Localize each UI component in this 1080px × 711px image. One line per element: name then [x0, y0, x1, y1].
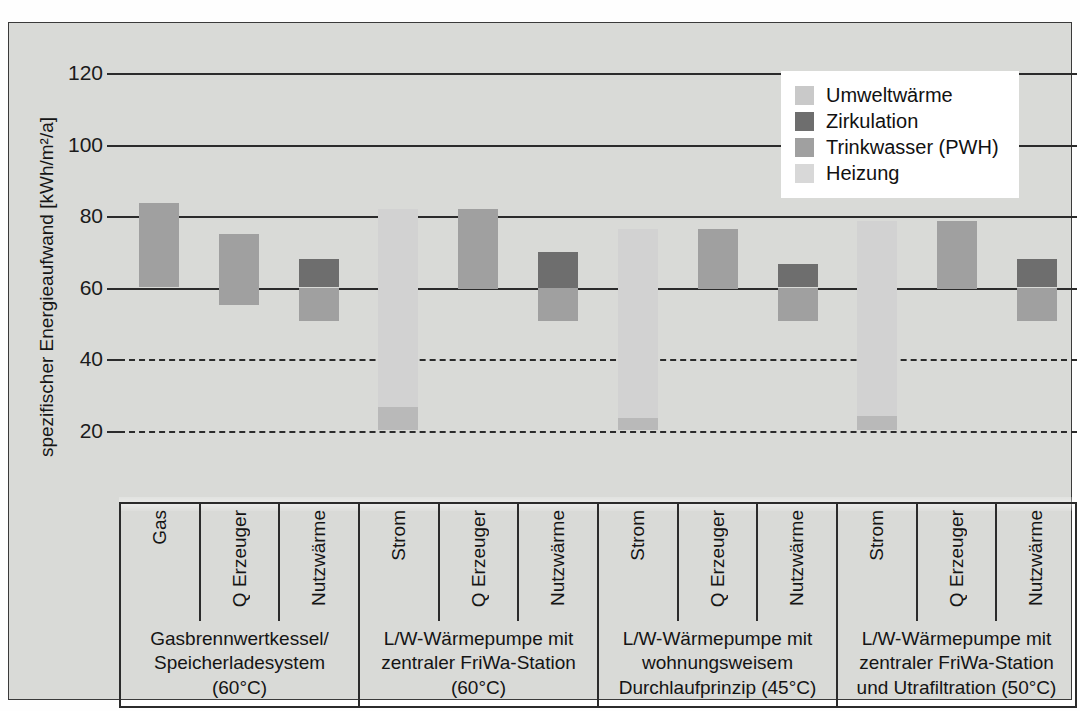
- bar-segment: [538, 288, 578, 322]
- y-tick-label-60: 60: [80, 276, 103, 300]
- x-category-label: Nutzwärme: [786, 510, 808, 606]
- y-tick-label-100: 100: [68, 133, 103, 157]
- x-category-label: Q Erzeuger: [946, 510, 968, 607]
- gridline-80: [119, 216, 1077, 218]
- x-group-row: Gasbrennwertkessel/Speicherladesystem (6…: [121, 621, 1075, 706]
- x-category-label: Strom: [388, 510, 410, 561]
- bar-segment: [378, 407, 418, 430]
- legend-swatch-icon: [795, 164, 814, 183]
- legend-item: Umweltwärme: [795, 84, 999, 107]
- legend-swatch-icon: [795, 86, 814, 105]
- y-tick-label-40: 40: [80, 347, 103, 371]
- bar-segment: [219, 234, 259, 306]
- legend-swatch-icon: [795, 138, 814, 157]
- gridline-20: [119, 431, 1077, 433]
- x-category-label: Nutzwärme: [308, 510, 330, 606]
- legend: UmweltwärmeZirkulationTrinkwasser (PWH)H…: [781, 71, 1019, 198]
- x-category-cell: Nutzwärme: [280, 504, 360, 621]
- bar-segment: [378, 209, 418, 407]
- x-category-cell: Q Erzeuger: [201, 504, 281, 621]
- y-tick-40: [107, 359, 119, 361]
- x-category-cell: Strom: [599, 504, 679, 621]
- x-category-label: Q Erzeuger: [229, 510, 251, 607]
- x-category-cell: Q Erzeuger: [679, 504, 759, 621]
- x-category-cell: Strom: [838, 504, 918, 621]
- y-tick-100: [107, 145, 119, 147]
- y-tick-80: [107, 216, 119, 218]
- x-category-cell: Nutzwärme: [997, 504, 1075, 621]
- bar-segment: [778, 264, 818, 287]
- legend-label: Umweltwärme: [826, 84, 953, 107]
- y-tick-120: [107, 73, 119, 75]
- x-category-label: Nutzwärme: [1025, 510, 1047, 606]
- x-group-cell: Gasbrennwertkessel/Speicherladesystem (6…: [121, 621, 360, 706]
- x-group-label: L/W-Wärmepumpe mitzentraler FriWa-Statio…: [381, 627, 576, 700]
- x-category-cell: Nutzwärme: [758, 504, 838, 621]
- x-category-cell: Q Erzeuger: [440, 504, 520, 621]
- x-category-label: Q Erzeuger: [707, 510, 729, 607]
- x-group-cell: L/W-Wärmepumpe mitwohnungsweisemDurchlau…: [599, 621, 838, 706]
- gridline-40: [119, 359, 1077, 361]
- x-category-cell: Gas: [121, 504, 201, 621]
- x-category-label: Nutzwärme: [547, 510, 569, 606]
- x-category-cell: Strom: [360, 504, 440, 621]
- legend-swatch-icon: [795, 112, 814, 131]
- y-tick-label-120: 120: [68, 61, 103, 85]
- y-tick-20: [107, 431, 119, 433]
- bar-segment: [618, 229, 658, 418]
- legend-label: Zirkulation: [826, 110, 918, 133]
- legend-label: Heizung: [826, 162, 899, 185]
- chart-page: spezifischer Energieaufwand [kWh/m²/a] 2…: [0, 0, 1080, 711]
- x-group-cell: L/W-Wärmepumpe mitzentraler FriWa-Statio…: [360, 621, 599, 706]
- gridline-60: [119, 288, 1077, 290]
- bar-segment: [139, 203, 179, 287]
- x-group-label: L/W-Wärmepumpe mitzentraler FriWa-Statio…: [857, 627, 1057, 700]
- bar-segment: [857, 221, 897, 416]
- legend-label: Trinkwasser (PWH): [826, 136, 999, 159]
- bar-segment: [458, 209, 498, 289]
- x-category-cell: Q Erzeuger: [918, 504, 998, 621]
- bar-segment: [1017, 259, 1057, 288]
- x-axis-table: GasQ ErzeugerNutzwärmeStromQ ErzeugerNut…: [119, 502, 1077, 708]
- x-group-cell: L/W-Wärmepumpe mitzentraler FriWa-Statio…: [838, 621, 1075, 706]
- legend-item: Heizung: [795, 162, 999, 185]
- bar-segment: [618, 418, 658, 431]
- x-category-label: Q Erzeuger: [468, 510, 490, 607]
- bar-segment: [698, 229, 738, 290]
- legend-item: Zirkulation: [795, 110, 999, 133]
- bar-segment: [538, 252, 578, 288]
- bar-segment: [1017, 288, 1057, 322]
- x-category-row: GasQ ErzeugerNutzwärmeStromQ ErzeugerNut…: [121, 504, 1075, 621]
- chart-plate: spezifischer Energieaufwand [kWh/m²/a] 2…: [8, 22, 1072, 700]
- bar-segment: [299, 288, 339, 322]
- x-category-label: Gas: [149, 510, 171, 545]
- x-group-label: Gasbrennwertkessel/Speicherladesystem (6…: [127, 627, 352, 700]
- x-group-label: L/W-Wärmepumpe mitwohnungsweisemDurchlau…: [619, 627, 817, 700]
- y-tick-60: [107, 288, 119, 290]
- bar-segment: [778, 288, 818, 322]
- x-category-cell: Nutzwärme: [519, 504, 599, 621]
- bar-segment: [857, 416, 897, 430]
- y-tick-label-20: 20: [80, 419, 103, 443]
- x-category-label: Strom: [866, 510, 888, 561]
- y-tick-label-80: 80: [80, 204, 103, 228]
- bar-segment: [299, 259, 339, 288]
- legend-item: Trinkwasser (PWH): [795, 136, 999, 159]
- x-category-label: Strom: [627, 510, 649, 561]
- y-axis-title: spezifischer Energieaufwand [kWh/m²/a]: [36, 117, 58, 457]
- bar-segment: [937, 221, 977, 289]
